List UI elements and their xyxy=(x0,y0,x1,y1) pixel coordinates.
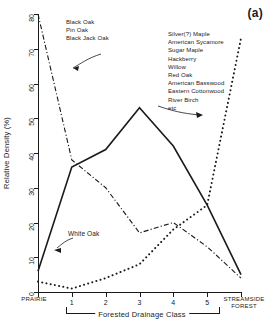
streamside-species-line-5: Willow xyxy=(168,63,224,71)
x-tick-label-2: 2 xyxy=(104,299,108,307)
streamside-species-line-9: River Birch xyxy=(168,96,224,104)
y-axis-title: Relative Density (%) xyxy=(2,117,11,189)
x-tick-2 xyxy=(106,292,107,297)
x-tick-label-5: 5 xyxy=(205,299,209,307)
x-tick-label-4: 4 xyxy=(171,299,175,307)
streamside-species-line-6: Red Oak xyxy=(168,71,224,79)
streamside-species-line-8: Eastern Cottonwood xyxy=(168,87,224,95)
y-tick-label-80: 80 xyxy=(29,14,36,22)
streamside-line-2: FOREST xyxy=(223,303,264,310)
annotation-white-oak: White Oak xyxy=(68,230,99,238)
streamside-species-line-10: etc xyxy=(168,104,224,112)
panel-label: (a) xyxy=(247,6,263,20)
y-tick-label-60: 60 xyxy=(29,84,36,92)
y-tick-label-30: 30 xyxy=(29,188,36,196)
y-tick-label-40: 40 xyxy=(29,153,36,161)
figure-panel-a: (a) 0 10 20 30 40 50 60 70 80 Relative D… xyxy=(0,0,277,327)
black-oak-line-1: Black Oak xyxy=(66,18,109,26)
streamside-species-line-7: American Basswood xyxy=(168,79,224,87)
x-tick-1 xyxy=(72,292,73,297)
annotation-black-oak-group: Black Oak Pin Oak Black Jack Oak xyxy=(66,18,109,43)
y-tick-label-50: 50 xyxy=(29,118,36,126)
y-tick-label-10: 10 xyxy=(29,257,36,265)
x-tick-3 xyxy=(140,292,141,297)
streamside-species-line-3: Sugar Maple xyxy=(168,46,224,54)
y-tick-label-70: 70 xyxy=(29,49,36,57)
streamside-species-line-4: Hackberry xyxy=(168,55,224,63)
annotation-streamside-species-group: Silver(?) Maple American Sycamore Sugar … xyxy=(168,30,224,112)
x-tick-label-1: 1 xyxy=(70,299,74,307)
x-tick-4 xyxy=(173,292,174,297)
y-tick-label-20: 20 xyxy=(29,223,36,231)
x-axis-end-label-prairie: PRAIRIE xyxy=(21,296,46,303)
x-axis-end-label-streamside-forest: STREAMSIDE FOREST xyxy=(223,296,264,310)
x-tick-label-3: 3 xyxy=(138,299,142,307)
streamside-species-line-1: Silver(?) Maple xyxy=(168,30,224,38)
black-oak-line-2: Pin Oak xyxy=(66,26,109,34)
x-axis-title: Forested Drainage Class xyxy=(95,310,189,319)
streamside-species-line-2: American Sycamore xyxy=(168,38,224,46)
black-oak-line-3: Black Jack Oak xyxy=(66,34,109,42)
streamside-line-1: STREAMSIDE xyxy=(223,296,264,303)
x-tick-5 xyxy=(207,292,208,297)
